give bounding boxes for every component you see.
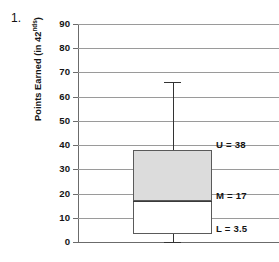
gridline-40 bbox=[78, 145, 279, 146]
tick-mark-10 bbox=[73, 218, 78, 219]
lower-quartile-label: L = 3.5 bbox=[216, 223, 247, 234]
upper-whisker-line bbox=[173, 82, 174, 150]
box-lower-half bbox=[133, 201, 212, 234]
tick-mark-80 bbox=[73, 48, 78, 49]
lower-whisker-cap bbox=[164, 242, 181, 243]
tick-mark-50 bbox=[73, 121, 78, 122]
tick-label-60: 60 bbox=[44, 92, 70, 102]
tick-mark-20 bbox=[73, 194, 78, 195]
tick-mark-40 bbox=[73, 145, 78, 146]
gridline-50 bbox=[78, 121, 279, 122]
tick-label-80: 80 bbox=[44, 43, 70, 53]
tick-label-0: 0 bbox=[44, 237, 70, 247]
tick-label-90: 90 bbox=[44, 19, 70, 29]
y-axis-title: Points Earned (in 42nds) bbox=[27, 9, 41, 129]
upper-quartile-label: U = 38 bbox=[216, 139, 246, 150]
tick-label-40: 40 bbox=[44, 140, 70, 150]
tick-mark-60 bbox=[73, 97, 78, 98]
tick-label-50: 50 bbox=[44, 116, 70, 126]
gridline-60 bbox=[78, 97, 279, 98]
tick-label-70: 70 bbox=[44, 67, 70, 77]
gridline-90 bbox=[78, 24, 279, 25]
lower-whisker-line bbox=[173, 234, 174, 242]
box-plot-figure: 1. Points Earned (in 42nds) 908070605040… bbox=[0, 0, 279, 262]
tick-mark-90 bbox=[73, 24, 78, 25]
tick-mark-0 bbox=[73, 242, 78, 243]
plot-area bbox=[78, 24, 279, 242]
gridline-70 bbox=[78, 72, 279, 73]
tick-label-30: 30 bbox=[44, 164, 70, 174]
tick-label-10: 10 bbox=[44, 213, 70, 223]
median-label: M = 17 bbox=[216, 190, 247, 201]
problem-number: 1. bbox=[11, 12, 21, 24]
tick-label-20: 20 bbox=[44, 189, 70, 199]
gridline-80 bbox=[78, 48, 279, 49]
upper-whisker-cap bbox=[164, 82, 181, 83]
tick-mark-30 bbox=[73, 169, 78, 170]
median-line bbox=[133, 201, 212, 202]
tick-mark-70 bbox=[73, 72, 78, 73]
y-axis-title-superscript: nds bbox=[31, 20, 38, 31]
box-upper-half bbox=[133, 150, 212, 201]
y-axis-tick-labels: 9080706050403020100 bbox=[42, 0, 70, 262]
